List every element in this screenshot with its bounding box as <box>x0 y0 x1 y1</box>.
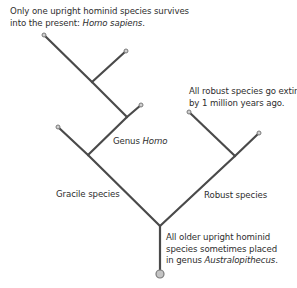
label-robust-species: Robust species <box>204 190 267 202</box>
label-gracile-species: Gracile species <box>56 189 120 201</box>
annotation-line: into the present: Homo sapiens. <box>10 18 189 30</box>
genus-name-australopithecus: Australopithecus <box>205 255 276 265</box>
annotation-line: All robust species go extinct <box>189 86 297 98</box>
branch-homo_node_lower-to-leaf_homo_lower <box>127 105 141 117</box>
annotation-australopithecus: All older upright hominid species someti… <box>166 232 278 267</box>
annotation-line: by 1 million years ago. <box>189 98 297 110</box>
annotation-line: species sometimes placed <box>166 244 278 256</box>
branch-homo_node_upper-to-leaf_homo_upper <box>92 51 126 82</box>
branch-robust_node-to-leaf_robust_right <box>235 133 259 156</box>
annotation-homo-sapiens-survives: Only one upright hominid species survive… <box>10 6 189 29</box>
annotation-line: Only one upright hominid species survive… <box>10 6 189 18</box>
annotation-line: All older upright hominid <box>166 232 278 244</box>
root-node-circle <box>156 270 164 278</box>
leaf-node-leaf_homo_upper <box>124 49 128 53</box>
annotation-line: in genus Australopithecus. <box>166 255 278 267</box>
annotation-robust-extinct: All robust species go extinct by 1 milli… <box>189 86 297 109</box>
leaf-node-leaf_homo_sapiens <box>42 33 46 37</box>
genus-name-homo: Homo <box>142 136 167 146</box>
label-genus-homo: Genus Homo <box>113 136 167 148</box>
leaf-node-leaf_homo_lower <box>139 103 143 107</box>
branch-homo_node_lower-to-homo_node_upper <box>92 82 127 117</box>
branch-homo_node_upper-to-leaf_homo_sapiens <box>44 35 92 82</box>
branch-gracile_node-to-leaf_gracile <box>58 127 88 155</box>
tree-root-node <box>156 270 164 278</box>
leaf-node-leaf_robust_right <box>257 131 261 135</box>
branch-robust_node-to-leaf_robust_left <box>189 112 235 156</box>
tree-leaf-nodes <box>42 33 261 135</box>
hominid-phylogeny-diagram: Only one upright hominid species survive… <box>0 0 297 288</box>
leaf-node-leaf_robust_left <box>187 110 191 114</box>
leaf-node-leaf_gracile <box>56 125 60 129</box>
species-name-homo-sapiens: Homo sapiens <box>83 18 143 28</box>
